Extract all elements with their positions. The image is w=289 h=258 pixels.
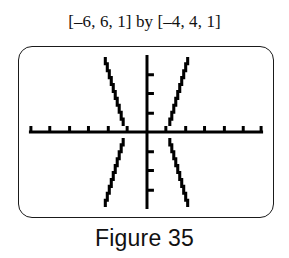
viewing-window-title: [–6, 6, 1] by [–4, 4, 1] — [0, 11, 289, 32]
curve-branch-upper-right — [170, 57, 188, 126]
axes-group — [29, 55, 263, 209]
figure-caption: Figure 35 — [0, 224, 289, 252]
graph-plot-area — [19, 47, 273, 217]
graphing-calculator-screen — [18, 46, 274, 218]
curve-branch-upper-left — [105, 57, 123, 126]
curve-branch-lower-right — [170, 138, 188, 207]
curve-branch-lower-left — [105, 138, 123, 207]
figure-container: [–6, 6, 1] by [–4, 4, 1] — [0, 0, 289, 258]
